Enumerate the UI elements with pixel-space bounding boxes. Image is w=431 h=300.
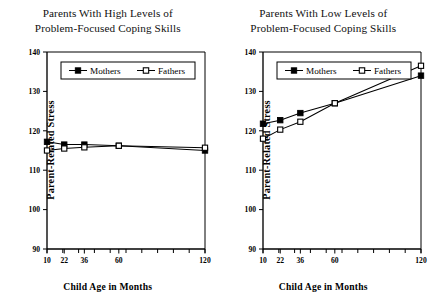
right-marker-mothers [297,110,302,115]
left-y-tick-label: 140 [29,48,41,57]
right-marker-fathers [418,63,423,68]
right-x-tick-label: 10 [259,256,267,265]
left-marker-fathers [116,143,121,148]
left-marker-fathers [202,145,207,150]
left-x-tick-label: 36 [81,256,89,265]
left-marker-fathers [44,148,49,153]
left-marker-fathers [82,145,87,150]
left-x-tick-label: 60 [115,256,123,265]
left-marker-fathers [62,146,67,151]
right-y-tick-label: 110 [245,166,256,175]
plot-area-left: 9010011012013014010223660120MothersFathe… [0,0,216,300]
chart-panel-low-coping: Parents With Low Levels of Problem-Focus… [216,0,431,300]
left-x-tick-label: 120 [199,256,211,265]
right-legend-marker-mothers [291,68,296,73]
left-legend-label-mothers: Mothers [90,66,121,76]
right-marker-fathers [277,127,282,132]
figure-container: Parents With High Levels of Problem-Focu… [0,0,431,300]
right-x-tick-label: 120 [415,256,427,265]
chart-panel-high-coping: Parents With High Levels of Problem-Focu… [0,0,216,300]
left-legend-marker-mothers [75,68,80,73]
right-y-tick-label: 90 [248,245,256,254]
right-x-tick-label: 60 [331,256,339,265]
left-plot-frame [47,52,205,249]
right-marker-fathers [297,119,302,124]
right-y-tick-label: 140 [244,48,256,57]
right-x-tick-label: 22 [276,256,284,265]
right-y-tick-label: 100 [244,205,256,214]
right-marker-fathers [332,101,337,106]
left-marker-mothers [44,139,49,144]
left-y-tick-label: 100 [29,205,41,214]
left-y-tick-label: 130 [29,87,41,96]
left-y-tick-label: 120 [29,127,41,136]
right-x-tick-label: 36 [296,256,304,265]
right-marker-mothers [277,117,282,122]
right-legend-label-fathers: Fathers [374,66,401,76]
right-marker-mothers [418,73,423,78]
right-marker-fathers [260,136,265,141]
right-y-tick-label: 130 [244,87,256,96]
left-y-tick-label: 110 [29,166,40,175]
left-x-tick-label: 22 [60,256,68,265]
left-x-tick-label: 10 [43,256,51,265]
left-legend-marker-fathers [143,68,148,73]
right-marker-mothers [260,121,265,126]
right-plot-frame [263,52,421,249]
right-y-tick-label: 120 [244,127,256,136]
left-legend-label-fathers: Fathers [158,66,185,76]
plot-area-right: 9010011012013014010223660120MothersFathe… [216,0,431,300]
right-legend-marker-fathers [359,68,364,73]
right-legend-label-mothers: Mothers [306,66,337,76]
left-y-tick-label: 90 [32,245,40,254]
